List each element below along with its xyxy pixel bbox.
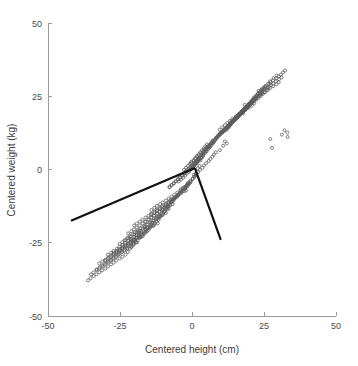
x-tick-label: -25: [113, 321, 126, 331]
chart-canvas: -50-2502550 -50-2502550 Centered height …: [0, 0, 358, 366]
x-tick-label: 0: [189, 321, 194, 331]
x-tick-label: -50: [41, 321, 54, 331]
scatter-plot-figure: -50-2502550 -50-2502550 Centered height …: [0, 0, 358, 366]
x-tick-label: 25: [259, 321, 269, 331]
y-tick-label: -50: [29, 312, 42, 322]
y-tick-label: 0: [37, 165, 42, 175]
x-axis-title: Centered height (cm): [145, 344, 239, 355]
y-tick-label: -25: [29, 238, 42, 248]
x-tick-label: 50: [331, 321, 341, 331]
y-tick-label: 50: [32, 19, 42, 29]
y-tick-label: 25: [32, 92, 42, 102]
y-axis-title: Centered weight (kg): [6, 124, 17, 217]
